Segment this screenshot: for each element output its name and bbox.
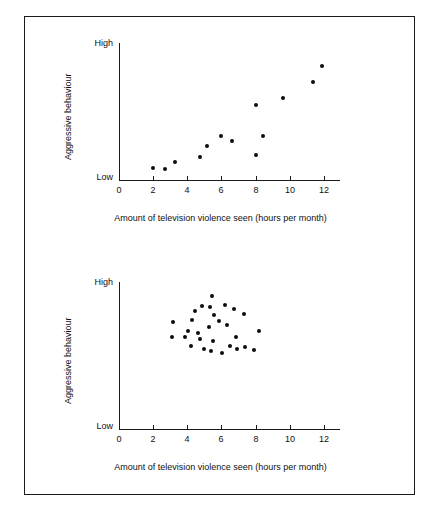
chart-panel-bottom: High Low Aggressive behaviour 024681012 … [25, 256, 416, 496]
x-tick [290, 425, 291, 430]
x-tick-label: 0 [109, 435, 129, 444]
x-tick [119, 425, 120, 430]
x-tick-label: 10 [280, 435, 300, 444]
x-tick [153, 176, 154, 181]
top-x-axis-label: Amount of television violence seen (hour… [25, 213, 416, 223]
x-tick [324, 176, 325, 181]
x-tick-label: 2 [143, 186, 163, 195]
x-tick-label: 12 [314, 186, 334, 195]
x-tick [324, 425, 325, 430]
x-tick-label: 6 [211, 435, 231, 444]
chart-panel-top: High Low Aggressive behaviour 024681012 … [25, 17, 416, 256]
bottom-x-axis-ticks: 024681012 [25, 256, 416, 496]
x-tick [256, 425, 257, 430]
x-tick-label: 2 [143, 435, 163, 444]
x-tick-label: 4 [177, 435, 197, 444]
x-tick-label: 12 [314, 435, 334, 444]
x-tick [119, 176, 120, 181]
x-tick [153, 425, 154, 430]
x-tick-label: 6 [211, 186, 231, 195]
figure-page: High Low Aggressive behaviour 024681012 … [0, 0, 432, 511]
x-tick [187, 176, 188, 181]
x-tick [290, 176, 291, 181]
x-tick-label: 4 [177, 186, 197, 195]
bottom-x-axis-label: Amount of television violence seen (hour… [25, 462, 416, 472]
x-tick [256, 176, 257, 181]
x-tick [221, 425, 222, 430]
x-tick-label: 0 [109, 186, 129, 195]
x-tick [221, 176, 222, 181]
x-tick [187, 425, 188, 430]
x-tick-label: 8 [246, 186, 266, 195]
x-tick-label: 10 [280, 186, 300, 195]
x-tick-label: 8 [246, 435, 266, 444]
figure-frame: High Low Aggressive behaviour 024681012 … [24, 16, 415, 495]
